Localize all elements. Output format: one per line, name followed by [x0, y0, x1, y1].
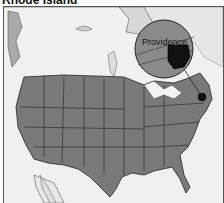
map-frame: Providence: [3, 6, 224, 203]
canada-island: [108, 51, 117, 77]
inset-circle: [135, 20, 194, 78]
hudson-bay-island: [76, 26, 92, 31]
west-coast-islands: [8, 11, 22, 67]
contiguous-us: [16, 73, 212, 197]
inset-city-label: Providence: [142, 37, 187, 47]
us-map: [4, 7, 223, 203]
